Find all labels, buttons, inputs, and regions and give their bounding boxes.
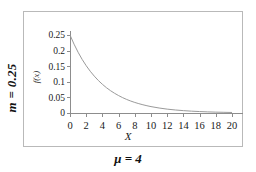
row-parameter-text: m = 0.25 (4, 63, 20, 112)
data-curve (70, 35, 232, 112)
y-tick-label: 0.2 (53, 46, 65, 56)
y-tick-label: 0 (60, 108, 65, 118)
axes-group (70, 31, 243, 114)
y-axis-title: f(x) (30, 55, 42, 99)
column-parameter-label: μ = 4 (0, 151, 256, 167)
y-tick-label: 0.05 (48, 93, 65, 103)
x-axis-title: X (0, 130, 256, 142)
y-tick-label: 0.25 (48, 30, 65, 40)
ticks-group (67, 36, 233, 118)
row-parameter-label: m = 0.25 (0, 36, 24, 140)
figure-panel: m = 0.25 00.050.10.150.20.25 02468101214… (0, 0, 256, 172)
y-tick-labels: 00.050.10.150.20.25 (48, 30, 65, 118)
y-tick-label: 0.1 (53, 77, 65, 87)
y-tick-label: 0.15 (48, 62, 65, 72)
y-axis-title-text: f(x) (31, 71, 41, 84)
data-curve-group (70, 35, 232, 112)
chart-plot: 00.050.10.150.20.25 02468101214161820 (23, 11, 243, 147)
